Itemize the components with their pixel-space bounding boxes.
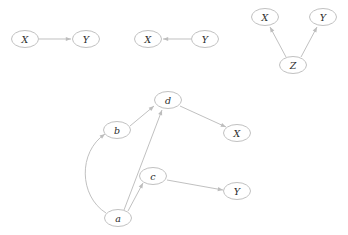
node-z[interactable]: Z: [280, 57, 307, 74]
edge-y-to-x-arrowhead-icon: [163, 37, 168, 41]
edge-z-to-x: [270, 27, 286, 57]
edge-b-to-d: [130, 106, 154, 126]
node-a[interactable]: a: [105, 210, 132, 227]
edge-z-to-y-arrowhead-icon: [313, 27, 317, 33]
node-label: X: [144, 34, 153, 45]
edge-x-to-y-arrowhead-icon: [66, 37, 71, 41]
edges-layer: [39, 27, 317, 213]
node-x[interactable]: X: [252, 9, 279, 26]
causal-graphs-svg: XYXYXYZdbXcYa: [0, 0, 348, 235]
node-y[interactable]: Y: [73, 31, 100, 48]
edge-x-to-y: [39, 37, 71, 41]
node-label: d: [165, 95, 171, 106]
edge-a-to-d: [124, 110, 162, 210]
node-y[interactable]: Y: [192, 31, 219, 48]
node-label: X: [21, 34, 30, 45]
node-x[interactable]: X: [135, 31, 162, 48]
edge-z-to-x-arrowhead-icon: [270, 27, 274, 33]
edge-a-to-d-arrowhead-icon: [158, 110, 162, 116]
nodes-layer: XYXYXYZdbXcYa: [12, 9, 337, 227]
edge-a-to-b: [85, 134, 106, 213]
node-label: Z: [289, 60, 297, 71]
edge-a-to-c-arrowhead-icon: [139, 183, 143, 189]
edge-d-to-x-arrowhead-icon: [220, 123, 226, 127]
node-b[interactable]: b: [104, 122, 131, 139]
node-x[interactable]: X: [224, 125, 251, 142]
node-label: X: [261, 12, 270, 23]
node-d[interactable]: d: [155, 92, 182, 109]
node-label: X: [233, 128, 242, 139]
edge-z-to-y: [301, 27, 317, 57]
edge-y-to-x: [163, 37, 191, 41]
node-y[interactable]: Y: [224, 183, 251, 200]
edge-a-to-c: [128, 183, 143, 211]
node-y[interactable]: Y: [310, 9, 337, 26]
node-x[interactable]: X: [12, 31, 39, 48]
edge-d-to-x: [180, 106, 226, 127]
figure-canvas: XYXYXYZdbXcYa: [0, 0, 348, 235]
node-c[interactable]: c: [140, 168, 167, 185]
node-label: c: [150, 171, 156, 182]
node-label: a: [115, 213, 121, 224]
edge-c-to-y-arrowhead-icon: [218, 187, 223, 191]
node-label: b: [114, 125, 120, 136]
edge-c-to-y: [167, 180, 223, 191]
